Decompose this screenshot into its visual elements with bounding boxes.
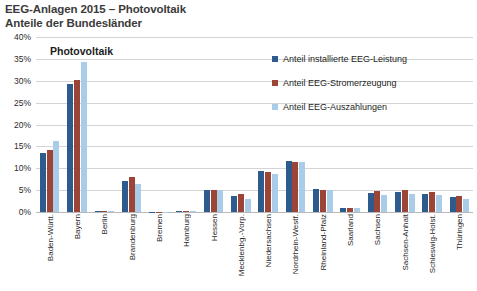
x-tick-label: Sachsen: [373, 214, 382, 245]
bar-series-1[interactable]: [368, 193, 374, 212]
bar-series-3[interactable]: [354, 208, 360, 212]
bar-series-2[interactable]: [402, 190, 408, 212]
bar-group[interactable]: [36, 37, 63, 212]
bar-series-1[interactable]: [450, 197, 456, 212]
bar-series-1[interactable]: [340, 208, 346, 212]
x-tick-label: Mecklenbg.-Vorp.: [237, 214, 246, 276]
x-axis-labels: Baden-Württ.BayernBerlinBrandenburgBreme…: [36, 214, 473, 291]
bar-series-3[interactable]: [299, 162, 305, 212]
y-tick-label: 30%: [0, 76, 31, 86]
x-tick-label: Hessen: [210, 214, 219, 241]
bar-series-2[interactable]: [347, 208, 353, 212]
x-tick-label: Baden-Württ.: [46, 214, 55, 261]
chart-legend: Anteil installierte EEG-LeistungAnteil E…: [272, 47, 472, 119]
bar-series-2[interactable]: [47, 150, 53, 212]
legend-label: Anteil EEG-Stromerzeugung: [283, 78, 397, 88]
bar-series-3[interactable]: [409, 194, 415, 212]
y-tick-label: 5%: [0, 185, 31, 195]
x-tick-label: Bremen: [155, 214, 164, 242]
bar-group[interactable]: [91, 37, 118, 212]
bar-series-1[interactable]: [258, 171, 264, 212]
bar-series-1[interactable]: [95, 211, 101, 212]
bar-series-3[interactable]: [245, 199, 251, 212]
bar-series-3[interactable]: [108, 211, 114, 212]
y-tick-label: 10%: [0, 163, 31, 173]
bar-series-1[interactable]: [40, 153, 46, 212]
y-tick-label: 40%: [0, 32, 31, 42]
bar-series-3[interactable]: [217, 190, 223, 212]
legend-swatch-icon: [272, 56, 278, 62]
x-tick-label: Hamburg: [182, 214, 191, 247]
y-tick-label: 25%: [0, 98, 31, 108]
y-tick-label: 20%: [0, 120, 31, 130]
bar-group[interactable]: [118, 37, 145, 212]
x-tick-label: Nordrhein-Westf.: [291, 214, 300, 274]
bar-series-3[interactable]: [135, 184, 141, 212]
bar-series-1[interactable]: [176, 211, 182, 212]
legend-label: Anteil installierte EEG-Leistung: [283, 54, 407, 64]
legend-item[interactable]: Anteil EEG-Stromerzeugung: [272, 71, 472, 95]
bar-group[interactable]: [145, 37, 172, 212]
x-tick-label: Thüringen: [455, 214, 464, 250]
y-tick-label: 15%: [0, 141, 31, 151]
bar-group[interactable]: [200, 37, 227, 212]
photovoltaik-bar-chart: 0%5%10%15%20%25%30%35%40% Photovoltaik A…: [0, 0, 477, 291]
legend-swatch-icon: [272, 80, 278, 86]
bar-series-3[interactable]: [463, 199, 469, 212]
bar-series-2[interactable]: [374, 191, 380, 212]
bar-series-3[interactable]: [272, 174, 278, 213]
x-tick-label: Rheinland-Pfalz: [319, 214, 328, 270]
legend-item[interactable]: Anteil EEG-Auszahlungen: [272, 95, 472, 119]
bar-series-1[interactable]: [122, 181, 128, 213]
bar-series-3[interactable]: [381, 195, 387, 213]
y-tick-label: 35%: [0, 54, 31, 64]
bar-series-2[interactable]: [292, 162, 298, 212]
x-tick-label: Niedersachsen: [264, 214, 273, 267]
y-tick-label: 0%: [0, 207, 31, 217]
bar-series-2[interactable]: [211, 190, 217, 212]
bar-series-2[interactable]: [129, 177, 135, 212]
legend-label: Anteil EEG-Auszahlungen: [283, 102, 387, 112]
bar-series-1[interactable]: [231, 196, 237, 212]
bar-series-1[interactable]: [313, 189, 319, 212]
legend-item[interactable]: Anteil installierte EEG-Leistung: [272, 47, 472, 71]
bar-series-3[interactable]: [327, 190, 333, 212]
bar-group[interactable]: [63, 37, 90, 212]
bar-series-2[interactable]: [238, 194, 244, 212]
bar-series-3[interactable]: [53, 141, 59, 212]
bar-series-2[interactable]: [265, 172, 271, 212]
gridline-0%: [36, 212, 473, 213]
bar-series-2[interactable]: [456, 196, 462, 212]
bar-series-2[interactable]: [101, 211, 107, 212]
legend-swatch-icon: [272, 104, 278, 110]
bar-series-1[interactable]: [395, 192, 401, 212]
bar-series-1[interactable]: [204, 190, 210, 212]
bar-group[interactable]: [173, 37, 200, 212]
bar-series-3[interactable]: [190, 211, 196, 212]
bar-series-1[interactable]: [422, 194, 428, 212]
x-tick-label: Sachsen-Anhalt: [401, 214, 410, 270]
bar-series-2[interactable]: [183, 211, 189, 212]
bar-series-1[interactable]: [67, 84, 73, 212]
bar-series-2[interactable]: [74, 80, 80, 212]
x-tick-label: Bayern: [73, 214, 82, 239]
x-tick-label: Berlin: [100, 214, 109, 234]
bar-series-3[interactable]: [81, 62, 87, 213]
bar-series-2[interactable]: [320, 190, 326, 212]
x-tick-label: Saarland: [346, 214, 355, 246]
x-tick-label: Brandenburg: [128, 214, 137, 260]
bar-series-3[interactable]: [436, 195, 442, 213]
bar-group[interactable]: [227, 37, 254, 212]
bar-series-1[interactable]: [286, 161, 292, 212]
x-tick-label: Schleswig-Holst.: [428, 214, 437, 273]
bar-series-2[interactable]: [429, 192, 435, 212]
